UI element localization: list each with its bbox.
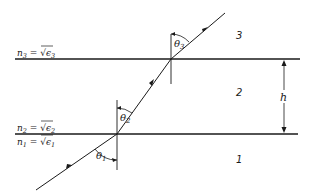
n1-refractive-index-label: n1 = √ϵ1 [17, 135, 55, 149]
region-1-label: 1 [236, 154, 242, 165]
svg-text:n2 = √ϵ2: n2 = √ϵ2 [17, 123, 55, 135]
theta2-arc-arrow-icon [117, 106, 121, 110]
theta3-label: θ3 [174, 38, 185, 51]
thickness-arrow-up-icon [282, 60, 287, 66]
theta2-label: θ2 [120, 112, 131, 125]
svg-text:n1 = √ϵ1: n1 = √ϵ1 [17, 137, 55, 149]
region-3-label: 3 [236, 30, 242, 41]
thickness-arrow-down-icon [282, 127, 287, 133]
theta3-arc-arrow-icon [171, 32, 175, 36]
thickness-label: h [280, 91, 287, 104]
theta1-arc-arrow-icon [112, 158, 117, 162]
ray-arrow-icon-3 [202, 27, 208, 32]
ray-arrow-icon-2 [149, 79, 154, 86]
theta1-label: θ1 [96, 150, 107, 163]
n2-refractive-index-label: n2 = √ϵ2 [17, 121, 55, 135]
layer-refraction-diagram: θ1 θ2 θ3 h 3 2 1 n3 = √ϵ3 n2 = √ϵ2 n1 = … [0, 0, 311, 194]
n3-refractive-index-label: n3 = √ϵ3 [17, 46, 55, 60]
transmitted-ray [171, 13, 225, 59]
svg-text:n3 = √ϵ3: n3 = √ϵ3 [17, 48, 55, 60]
region-2-label: 2 [236, 87, 242, 98]
ray-arrow-icon-1 [66, 164, 72, 169]
